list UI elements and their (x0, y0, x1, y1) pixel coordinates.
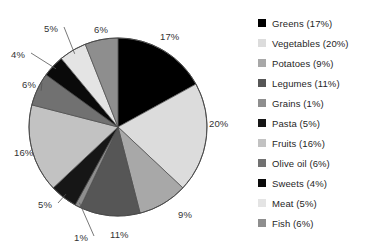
legend-item-legumes[interactable]: Legumes (11%) (258, 73, 366, 93)
legend-swatch-icon (258, 219, 266, 227)
legend-swatch-icon (258, 179, 266, 187)
legend-item-pasta[interactable]: Pasta (5%) (258, 113, 366, 133)
legend-item-label: Potatoes (9%) (272, 58, 334, 69)
pie-svg (0, 0, 240, 252)
legend-swatch-icon (258, 139, 266, 147)
legend-item-fish[interactable]: Fish (6%) (258, 213, 366, 233)
pie-label-greens: 17% (160, 31, 179, 42)
legend-item-label: Pasta (5%) (272, 118, 320, 129)
legend-item-label: Meat (5%) (272, 198, 317, 209)
chart-legend: Greens (17%)Vegetables (20%)Potatoes (9%… (258, 13, 366, 233)
leader-line-meat (64, 27, 75, 54)
pie-label-oliveoil: 6% (22, 79, 36, 90)
legend-swatch-icon (258, 119, 266, 127)
pie-label-vegetables: 20% (209, 118, 228, 129)
pie-label-grains: 1% (74, 232, 88, 243)
pie-label-potatoes: 9% (178, 209, 192, 220)
legend-swatch-icon (258, 99, 266, 107)
leader-line-sweets (31, 53, 56, 69)
pie-label-sweets: 4% (11, 49, 25, 60)
legend-item-fruits[interactable]: Fruits (16%) (258, 133, 366, 153)
pie-label-pasta: 5% (38, 199, 52, 210)
legend-swatch-icon (258, 59, 266, 67)
pie-label-fish: 6% (94, 24, 108, 35)
pie-plot-area: 17%20%9%11%1%5%16%6%4%5%6% (0, 0, 240, 252)
legend-item-label: Vegetables (20%) (272, 38, 349, 49)
legend-item-potatoes[interactable]: Potatoes (9%) (258, 53, 366, 73)
legend-swatch-icon (258, 79, 266, 87)
legend-item-label: Olive oil (6%) (272, 158, 330, 169)
pie-slices-group (29, 38, 207, 216)
pie-chart-figure: 17%20%9%11%1%5%16%6%4%5%6% Greens (17%)V… (0, 0, 366, 252)
legend-item-label: Legumes (11%) (272, 78, 340, 89)
legend-swatch-icon (258, 199, 266, 207)
pie-label-fruits: 16% (14, 147, 33, 158)
legend-swatch-icon (258, 159, 266, 167)
legend-item-meat[interactable]: Meat (5%) (258, 193, 366, 213)
legend-item-label: Fruits (16%) (272, 138, 325, 149)
pie-label-meat: 5% (44, 23, 58, 34)
legend-item-label: Fish (6%) (272, 218, 314, 229)
legend-swatch-icon (258, 19, 266, 27)
legend-item-olive-oil[interactable]: Olive oil (6%) (258, 153, 366, 173)
legend-item-label: Sweets (4%) (272, 178, 327, 189)
legend-item-greens[interactable]: Greens (17%) (258, 13, 366, 33)
legend-swatch-icon (258, 39, 266, 47)
legend-item-grains[interactable]: Grains (1%) (258, 93, 366, 113)
legend-item-label: Grains (1%) (272, 98, 324, 109)
pie-label-legumes: 11% (110, 229, 129, 240)
legend-item-label: Greens (17%) (272, 18, 332, 29)
legend-item-vegetables[interactable]: Vegetables (20%) (258, 33, 366, 53)
legend-item-sweets[interactable]: Sweets (4%) (258, 173, 366, 193)
